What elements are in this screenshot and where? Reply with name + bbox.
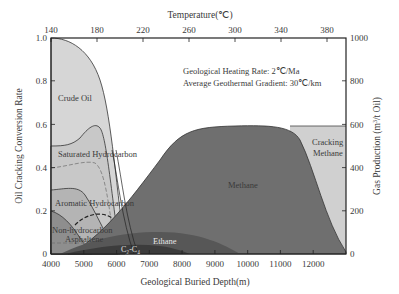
svg-text:5000: 5000 (75, 259, 94, 269)
right-tick-labels: 0 200 400 600 800 1000 (350, 33, 369, 259)
svg-text:11000: 11000 (269, 259, 292, 269)
svg-text:380: 380 (320, 25, 334, 35)
left-axis-title: Oil Cracking Conversion Rate (14, 88, 24, 203)
svg-text:9000: 9000 (206, 259, 225, 269)
svg-text:600: 600 (350, 120, 364, 130)
right-axis-title: Gas Production (m3/t Oil) (372, 97, 383, 195)
label-saturated: Saturated Hydrocarbon (58, 149, 138, 159)
chart-canvas: Temperature(℃) Geological Buried Depth(m… (0, 0, 399, 294)
label-cracking: Cracking (312, 137, 344, 147)
svg-text:0.8: 0.8 (36, 76, 48, 86)
svg-text:8000: 8000 (173, 259, 192, 269)
svg-text:220: 220 (136, 25, 150, 35)
bottom-tick-labels: 4000 5000 6000 7000 8000 9000 10000 1100… (42, 259, 325, 269)
svg-text:10000: 10000 (236, 259, 259, 269)
svg-text:0: 0 (350, 249, 355, 259)
label-aromatic: Aromatic Hydrocarbon (55, 198, 135, 208)
svg-text:260: 260 (182, 25, 196, 35)
svg-text:12000: 12000 (302, 259, 325, 269)
svg-text:0.2: 0.2 (36, 206, 47, 216)
svg-text:6000: 6000 (108, 259, 127, 269)
top-axis-title: Temperature(℃) (167, 10, 232, 21)
left-tick-labels: 0 0.2 0.4 0.6 0.8 1.0 (36, 33, 48, 259)
svg-text:200: 200 (350, 206, 364, 216)
label-cracking-methane: Methane (313, 148, 343, 158)
svg-text:300: 300 (228, 25, 242, 35)
bottom-axis-title: Geological Buried Depth(m) (140, 277, 249, 288)
svg-text:340: 340 (274, 25, 288, 35)
svg-text:7000: 7000 (140, 259, 159, 269)
svg-text:1.0: 1.0 (36, 33, 48, 43)
svg-text:800: 800 (350, 76, 364, 86)
label-asphaltene: Asphaltene (65, 234, 103, 244)
label-crude-oil: Crude Oil (58, 93, 92, 103)
svg-text:4000: 4000 (42, 259, 61, 269)
svg-text:0.4: 0.4 (36, 163, 48, 173)
svg-text:1000: 1000 (350, 33, 369, 43)
label-methane: Methane (228, 180, 258, 190)
geothermal-gradient-note: Average Geothermal Gradient: 30℃/km (183, 78, 322, 88)
svg-text:0: 0 (43, 249, 48, 259)
svg-text:180: 180 (90, 25, 104, 35)
heating-rate-note: Geological Heating Rate: 2℃/Ma (183, 66, 300, 76)
label-c2c4: C₂-C₄ (121, 245, 140, 254)
top-tick-labels: 140 180 220 260 300 340 380 (44, 25, 334, 35)
svg-text:0.6: 0.6 (36, 120, 48, 130)
svg-text:400: 400 (350, 163, 364, 173)
label-ethane: Ethane (153, 236, 177, 246)
